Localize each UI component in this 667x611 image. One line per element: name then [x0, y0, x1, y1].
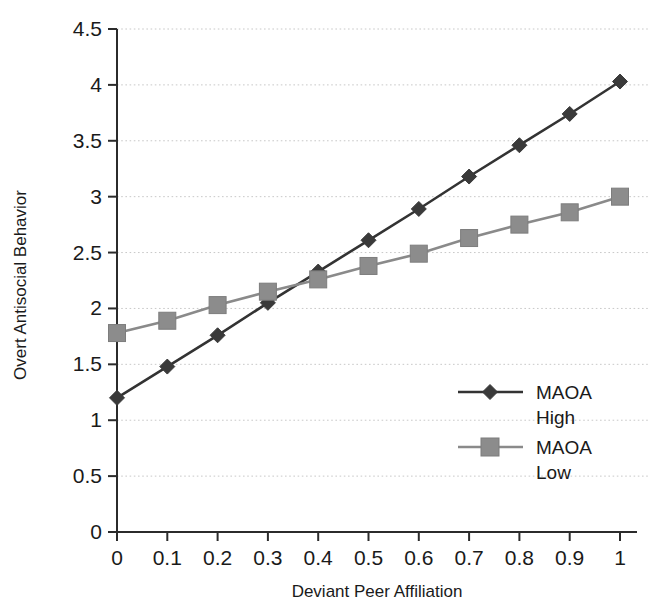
- x-tick-label: 0.6: [404, 546, 433, 569]
- data-point-marker: [462, 169, 477, 184]
- x-tick-label: 0.4: [304, 546, 334, 569]
- data-point-marker: [310, 271, 327, 288]
- legend-item[interactable]: MAOAHigh: [458, 382, 592, 428]
- y-axis-title: Overt Antisocial Behavior: [11, 190, 30, 380]
- legend-marker-diamond: [483, 385, 498, 400]
- legend-marker-square: [481, 438, 499, 456]
- y-tick-label: 3: [90, 185, 102, 208]
- data-point-marker: [561, 204, 578, 221]
- x-tick-label: 0.9: [555, 546, 584, 569]
- y-tick-label: 2.5: [73, 241, 102, 264]
- y-tick-label: 0.5: [73, 464, 102, 487]
- y-tick-label: 4: [90, 73, 102, 96]
- legend-label-line2: High: [536, 407, 575, 428]
- y-tick-label: 2: [90, 296, 102, 319]
- series-layer: [109, 74, 629, 405]
- data-point-marker: [613, 74, 628, 89]
- data-point-marker: [511, 216, 528, 233]
- line-chart: 00.511.522.533.544.5 00.10.20.30.40.50.6…: [0, 0, 667, 611]
- y-tick-label: 3.5: [73, 129, 102, 152]
- data-point-marker: [109, 325, 126, 342]
- data-point-marker: [612, 188, 629, 205]
- series-maoa-high: [110, 74, 628, 405]
- x-axis-title: Deviant Peer Affiliation: [292, 582, 463, 601]
- data-point-marker: [209, 297, 226, 314]
- series-maoa-low: [109, 188, 629, 341]
- y-tick-label: 4.5: [73, 17, 102, 40]
- x-tick-label: 0.2: [203, 546, 232, 569]
- x-tick-label: 0.7: [454, 546, 483, 569]
- data-point-marker: [361, 233, 376, 248]
- x-tick-label: 0.1: [153, 546, 182, 569]
- x-tick-label: 0: [111, 546, 123, 569]
- x-tick-label: 0.5: [354, 546, 383, 569]
- data-point-marker: [461, 230, 478, 247]
- legend-label-line1: MAOA: [536, 437, 592, 458]
- data-point-marker: [259, 283, 276, 300]
- data-point-marker: [160, 359, 175, 374]
- data-point-marker: [411, 201, 426, 216]
- x-tick-label: 0.8: [505, 546, 534, 569]
- y-tick-label: 1: [90, 408, 102, 431]
- x-tick-label: 0.3: [253, 546, 282, 569]
- data-point-marker: [110, 390, 125, 405]
- data-point-marker: [410, 245, 427, 262]
- data-point-marker: [512, 138, 527, 153]
- x-tick-label: 1: [614, 546, 626, 569]
- legend-label-line1: MAOA: [536, 382, 592, 403]
- data-point-marker: [159, 312, 176, 329]
- x-axis-ticks: 00.10.20.30.40.50.60.70.80.91: [111, 532, 626, 569]
- chart-legend: MAOAHighMAOALow: [458, 382, 592, 483]
- data-point-marker: [360, 257, 377, 274]
- data-point-marker: [562, 106, 577, 121]
- chart-container: 00.511.522.533.544.5 00.10.20.30.40.50.6…: [0, 0, 667, 611]
- y-tick-label: 1.5: [73, 352, 102, 375]
- legend-label-line2: Low: [536, 462, 571, 483]
- y-tick-label: 0: [90, 520, 102, 543]
- data-point-marker: [210, 328, 225, 343]
- y-axis-ticks: 00.511.522.533.544.5: [73, 17, 117, 543]
